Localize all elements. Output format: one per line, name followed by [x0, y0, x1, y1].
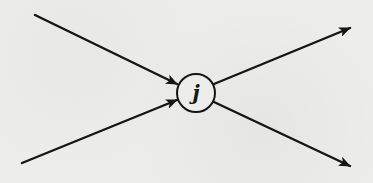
diagram-canvas: j: [0, 0, 373, 183]
incoming-edge-2: [22, 100, 177, 163]
incoming-edge-1: [35, 15, 177, 84]
outgoing-edge-1: [214, 28, 350, 84]
outgoing-edge-2: [214, 102, 350, 166]
node-label: j: [177, 74, 215, 112]
